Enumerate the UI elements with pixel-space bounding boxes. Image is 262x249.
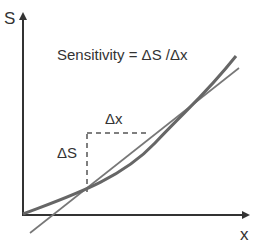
delta-s-label: ΔS — [57, 145, 77, 160]
formula-title: Sensitivity = ΔS /Δx — [57, 47, 188, 62]
sensitivity-diagram — [0, 0, 262, 249]
delta-x-label: Δx — [105, 111, 123, 126]
y-axis-label: S — [4, 10, 15, 27]
x-axis-label: x — [240, 226, 249, 243]
sensitivity-curve — [23, 56, 236, 214]
